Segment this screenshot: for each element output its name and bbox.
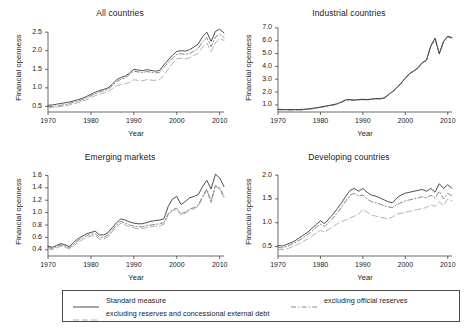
y-axis-label: Financial openness bbox=[14, 24, 23, 112]
panel-all-countries: All countries0.51.01.52.02.5197019801990… bbox=[8, 8, 232, 146]
panel-emerging-markets: Emerging markets0.40.60.81.01.21.41.6197… bbox=[8, 152, 232, 290]
series-line-dashdot bbox=[278, 191, 452, 248]
financial-openness-figure: All countries0.51.01.52.02.5197019801990… bbox=[0, 0, 465, 328]
legend-swatch-solid-icon bbox=[73, 297, 99, 305]
legend-entry: excluding reserves and concessional exte… bbox=[73, 309, 269, 318]
legend-box: Standard measureexcluding official reser… bbox=[62, 290, 460, 322]
x-axis-label: Year bbox=[48, 273, 224, 282]
y-axis-label: Financial openness bbox=[244, 24, 253, 112]
plot-area bbox=[8, 152, 232, 290]
series-line-solid bbox=[48, 29, 224, 105]
plot-area bbox=[238, 152, 460, 290]
plot-area bbox=[238, 8, 460, 146]
series-line-solid bbox=[278, 36, 452, 109]
legend-label: Standard measure bbox=[106, 296, 166, 305]
panel-developing-countries: Developing countries0.51.01.52.019701980… bbox=[238, 152, 460, 290]
series-line-solid bbox=[48, 174, 224, 247]
y-axis-label: Financial openness bbox=[14, 168, 23, 256]
legend-entry: Standard measure bbox=[73, 296, 166, 305]
x-axis-label: Year bbox=[278, 273, 452, 282]
legend-label: excluding reserves and concessional exte… bbox=[106, 309, 269, 318]
panel-industrial-countries: Industrial countries1.02.03.04.05.06.07.… bbox=[238, 8, 460, 146]
x-axis-label: Year bbox=[278, 129, 452, 138]
legend-swatch-dashdot-icon bbox=[291, 297, 317, 305]
series-line-dashdot bbox=[48, 34, 224, 106]
series-line-longdash bbox=[48, 187, 224, 250]
y-axis-label: Financial openness bbox=[244, 168, 253, 256]
legend-label: excluding official reserves bbox=[324, 296, 408, 305]
series-line-longdash bbox=[48, 39, 224, 108]
legend-entry: excluding official reserves bbox=[291, 296, 408, 305]
plot-area bbox=[8, 8, 232, 146]
x-axis-label: Year bbox=[48, 129, 224, 138]
legend-swatch-longdash-icon bbox=[73, 310, 99, 318]
series-line-longdash bbox=[278, 199, 452, 250]
